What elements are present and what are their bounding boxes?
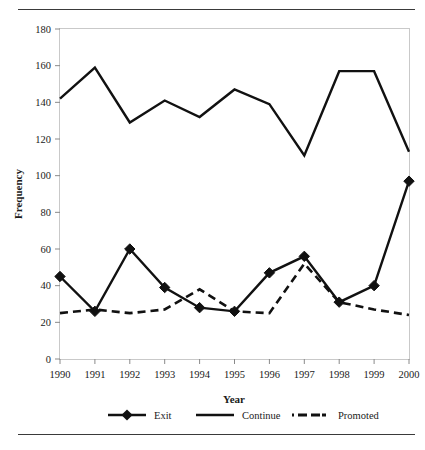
x-tick-label: 1997 (294, 369, 315, 380)
y-tick-label: 0 (46, 354, 51, 365)
x-tick-label: 1994 (189, 369, 211, 380)
y-tick-label: 140 (35, 97, 51, 108)
x-tick-label: 1996 (259, 369, 280, 380)
series-line-exit (60, 181, 409, 311)
y-tick-label: 40 (41, 280, 52, 291)
x-tick-label: 1990 (50, 369, 71, 380)
data-point-marker (194, 302, 204, 312)
x-axis-title: Year (223, 393, 245, 405)
data-point-marker (369, 280, 379, 290)
y-tick-label: 60 (41, 244, 52, 255)
y-tick-label: 160 (35, 60, 51, 71)
y-axis-tick-labels: 020406080100120140160180 (35, 24, 51, 365)
legend-label: Promoted (338, 410, 380, 421)
x-tick-label: 2000 (399, 369, 420, 380)
legend-label: Exit (154, 410, 172, 421)
y-axis-title: Frequency (12, 169, 24, 219)
x-axis-tick-labels: 1990199119921993199419951996199719981999… (50, 369, 420, 380)
chart-legend: ExitContinuePromoted (108, 409, 380, 421)
data-point-marker (404, 176, 414, 186)
x-tick-label: 1993 (154, 369, 175, 380)
x-tick-label: 1991 (84, 369, 105, 380)
line-chart: 020406080100120140160180 199019911992199… (0, 14, 425, 430)
series-line-continue (60, 68, 409, 156)
chart-canvas: 020406080100120140160180 199019911992199… (0, 14, 425, 430)
legend-label: Continue (242, 410, 281, 421)
y-tick-label: 180 (35, 24, 51, 35)
legend-item-exit[interactable]: Exit (108, 409, 172, 421)
x-tick-label: 1998 (329, 369, 350, 380)
y-tick-label: 20 (41, 317, 52, 328)
y-tick-label: 100 (35, 170, 51, 181)
series-layer (55, 68, 414, 317)
y-tick-label: 120 (35, 134, 51, 145)
y-tick-label: 80 (41, 207, 52, 218)
figure: 020406080100120140160180 199019911992199… (0, 0, 425, 450)
legend-swatch-diamond (121, 409, 132, 420)
figure-bottom-rule (18, 434, 415, 435)
legend-item-promoted[interactable]: Promoted (292, 410, 380, 421)
x-tick-label: 1999 (364, 369, 385, 380)
x-tick-label: 1995 (224, 369, 245, 380)
x-tick-label: 1992 (119, 369, 140, 380)
legend-item-continue[interactable]: Continue (196, 410, 281, 421)
figure-top-rule (18, 9, 415, 10)
